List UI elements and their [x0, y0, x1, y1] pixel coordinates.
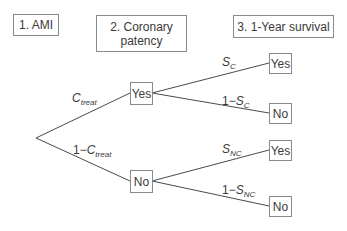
stage-1-label: 1. AMI	[19, 18, 53, 32]
node-survival-nc-yes: Yes	[269, 140, 292, 161]
edge-label-s-c: SC	[222, 55, 236, 71]
node-label: No	[134, 175, 149, 189]
node-patency-yes: Yes	[130, 82, 153, 105]
node-label: Yes	[132, 87, 152, 101]
edge-s-nc	[152, 150, 269, 181]
stage-3-header: 3. 1-Year survival	[233, 15, 334, 38]
node-label: No	[273, 200, 288, 214]
stage-1-header: 1. AMI	[13, 14, 59, 36]
stage-2-label-line1: 2. Coronary	[110, 20, 173, 34]
node-survival-c-yes: Yes	[269, 53, 292, 74]
node-survival-c-no: No	[269, 103, 292, 124]
node-survival-nc-no: No	[269, 196, 292, 217]
edge-label-one-minus-s-nc: 1−SNC	[222, 183, 255, 199]
stage-2-label-line2: patency	[120, 34, 162, 48]
edge-label-one-minus-s-c: 1−SC	[222, 94, 249, 110]
edge-label-c-treat: Ctreat	[72, 91, 97, 107]
edge-label-one-minus-c-treat: 1−Ctreat	[73, 143, 111, 159]
node-label: Yes	[271, 144, 291, 158]
edge-s-c	[152, 63, 269, 93]
node-label: Yes	[271, 57, 291, 71]
stage-2-header: 2. Coronary patency	[96, 15, 187, 52]
node-patency-no: No	[130, 170, 153, 193]
edge-one-minus-s-c	[152, 93, 269, 113]
stage-3-label: 3. 1-Year survival	[237, 20, 329, 34]
edge-label-s-nc: SNC	[222, 142, 242, 158]
node-label: No	[273, 107, 288, 121]
